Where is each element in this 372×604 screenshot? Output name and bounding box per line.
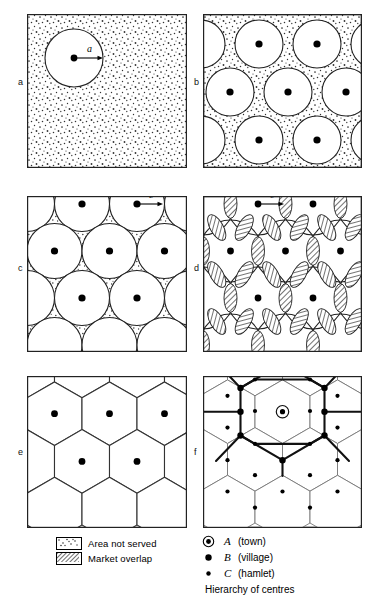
key-name-village: (village) bbox=[238, 552, 273, 563]
panel-c: b bbox=[27, 196, 187, 352]
hatched-swatch-icon bbox=[56, 552, 82, 565]
key-letter-b: B bbox=[224, 551, 238, 563]
panel-a: a bbox=[27, 14, 187, 168]
panel-label-d: d bbox=[194, 264, 199, 273]
panel-b bbox=[203, 14, 362, 168]
panel-label-c: c bbox=[18, 264, 23, 273]
key-row-village: B (village) bbox=[202, 549, 294, 565]
dotted-swatch-icon bbox=[56, 537, 82, 550]
key-name-hamlet: (hamlet) bbox=[238, 568, 275, 579]
key-name-town: (town) bbox=[238, 536, 266, 547]
pattern-legend: Area not served Market overlap bbox=[56, 537, 157, 565]
panel-e bbox=[27, 376, 187, 528]
central-place-figure: a b c d e f a bbox=[0, 0, 372, 604]
panel-d: c bbox=[203, 196, 362, 352]
legend-label-area-not-served: Area not served bbox=[88, 538, 157, 549]
large-dot-icon bbox=[202, 551, 224, 564]
panel-label-b: b bbox=[194, 78, 199, 87]
panel-a-annotation: a bbox=[87, 43, 92, 54]
panel-label-a: a bbox=[18, 78, 23, 87]
key-row-town: A (town) bbox=[202, 533, 294, 549]
a-town bbox=[276, 406, 288, 418]
legend-row-area-not-served: Area not served bbox=[56, 537, 157, 550]
legend-row-market-overlap: Market overlap bbox=[56, 552, 157, 565]
panel-f bbox=[203, 376, 362, 528]
legend-label-market-overlap: Market overlap bbox=[88, 553, 152, 564]
hierarchy-key: A (town) B (village) C (hamlet) Hierarch… bbox=[202, 533, 294, 595]
key-letter-c: C bbox=[224, 567, 238, 579]
key-caption: Hierarchy of centres bbox=[202, 584, 294, 595]
panel-label-e: e bbox=[18, 448, 23, 457]
small-dot-icon bbox=[202, 567, 224, 580]
panel-label-f: f bbox=[194, 448, 197, 457]
circled-dot-icon bbox=[202, 535, 224, 548]
key-row-hamlet: C (hamlet) bbox=[202, 565, 294, 581]
key-letter-a: A bbox=[224, 535, 238, 547]
